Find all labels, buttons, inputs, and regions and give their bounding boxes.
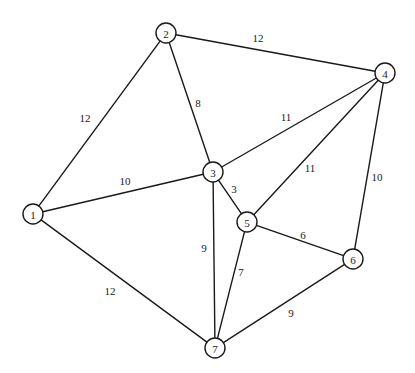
graph-edge-1-2 <box>39 41 160 206</box>
nodes-layer: 1234567 <box>23 23 395 358</box>
edge-weights-layer: 12101281211391110679 <box>80 32 384 319</box>
edge-weight-4-6: 10 <box>372 171 384 183</box>
graph-edge-5-7 <box>217 232 244 339</box>
edge-weight-1-3: 10 <box>120 175 132 187</box>
graph-node-3[interactable]: 3 <box>203 162 223 182</box>
node-label-4: 4 <box>382 68 388 80</box>
graph-diagram: 12101281211391110679 1234567 <box>0 0 415 373</box>
graph-edge-4-6 <box>355 83 384 249</box>
edge-weight-5-7: 7 <box>238 266 244 278</box>
edge-weight-3-4: 11 <box>281 111 292 123</box>
node-label-6: 6 <box>350 254 356 266</box>
edge-weight-2-4: 12 <box>253 32 264 44</box>
node-label-7: 7 <box>212 343 218 355</box>
graph-edge-1-7 <box>41 220 207 342</box>
graph-node-5[interactable]: 5 <box>237 212 257 232</box>
edge-weight-1-2: 12 <box>80 112 91 124</box>
edge-weight-3-7: 9 <box>201 242 207 254</box>
graph-edge-4-5 <box>254 80 378 214</box>
graph-node-6[interactable]: 6 <box>343 249 363 269</box>
graph-edge-3-7 <box>213 182 215 338</box>
edge-weight-2-3: 8 <box>195 97 201 109</box>
graph-edge-3-4 <box>222 78 377 167</box>
graph-edge-2-3 <box>169 42 210 162</box>
edges-layer <box>39 35 383 343</box>
edge-weight-5-6: 6 <box>300 229 306 241</box>
graph-node-7[interactable]: 7 <box>205 338 225 358</box>
graph-node-1[interactable]: 1 <box>23 204 43 224</box>
edge-weight-1-7: 12 <box>105 285 116 297</box>
graph-node-4[interactable]: 4 <box>375 63 395 83</box>
edge-weight-6-7: 9 <box>288 307 294 319</box>
node-label-2: 2 <box>163 28 169 40</box>
node-label-3: 3 <box>210 167 216 179</box>
graph-node-2[interactable]: 2 <box>156 23 176 43</box>
graph-edge-3-5 <box>219 180 242 213</box>
graph-edge-2-4 <box>176 35 375 71</box>
edge-weight-4-5: 11 <box>305 162 316 174</box>
node-label-1: 1 <box>30 209 36 221</box>
node-label-5: 5 <box>244 217 250 229</box>
edge-weight-3-5: 3 <box>231 183 237 195</box>
